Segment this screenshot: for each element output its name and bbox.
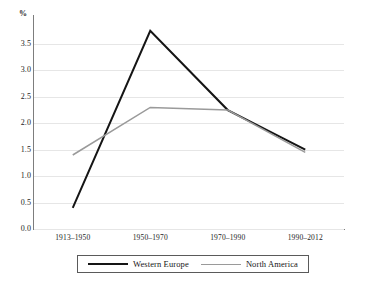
legend-line-icon-north-america (201, 264, 241, 265)
chart-legend: Western Europe North America (77, 255, 309, 273)
series-line (73, 31, 306, 208)
line-chart: % 0.00.51.01.52.02.53.03.5 1913–19501950… (0, 0, 378, 284)
legend-line-icon-western-europe (88, 263, 128, 265)
series-lines (0, 0, 378, 284)
legend-label-western-europe: Western Europe (133, 260, 189, 269)
legend-item-western-europe: Western Europe (88, 260, 189, 269)
legend-item-north-america: North America (201, 260, 298, 269)
legend-label-north-america: North America (246, 260, 298, 269)
